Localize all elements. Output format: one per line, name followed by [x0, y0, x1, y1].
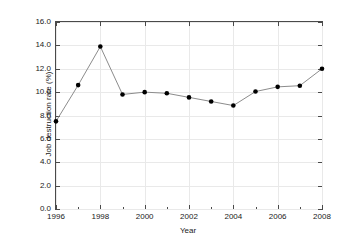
x-tick-label: 2004 [224, 213, 242, 221]
y-tick-label: 4.0 [40, 158, 51, 166]
series-line [56, 47, 322, 122]
y-tick-label: 16.0 [35, 18, 51, 26]
line-chart: 0.02.04.06.08.010.012.014.016.0 19961998… [0, 0, 338, 247]
data-point-marker [165, 91, 170, 96]
data-point-marker [275, 85, 280, 90]
data-point-marker [253, 89, 258, 94]
y-axis-title: Job destruction rate (%) [44, 72, 53, 157]
data-point-marker [298, 83, 303, 88]
data-point-marker [231, 103, 236, 108]
data-point-marker [142, 90, 147, 95]
data-point-marker [98, 44, 103, 49]
y-tick-label: 14.0 [35, 41, 51, 49]
y-tick-label: 2.0 [40, 182, 51, 190]
data-point-marker [120, 92, 125, 97]
x-tick-label: 2002 [180, 213, 198, 221]
data-point-marker [187, 95, 192, 100]
data-point-marker [209, 99, 214, 104]
x-tick-label: 2008 [313, 213, 331, 221]
x-tick-label: 2006 [269, 213, 287, 221]
data-point-marker [54, 119, 59, 124]
x-tick-label: 2000 [136, 213, 154, 221]
plot-area: 0.02.04.06.08.010.012.014.016.0 19961998… [55, 21, 323, 210]
x-axis-title: Year [55, 226, 321, 235]
x-tick-label: 1998 [91, 213, 109, 221]
data-point-marker [320, 66, 325, 71]
x-tick-label: 1996 [47, 213, 65, 221]
data-point-marker [76, 83, 81, 88]
data-series [56, 22, 322, 209]
